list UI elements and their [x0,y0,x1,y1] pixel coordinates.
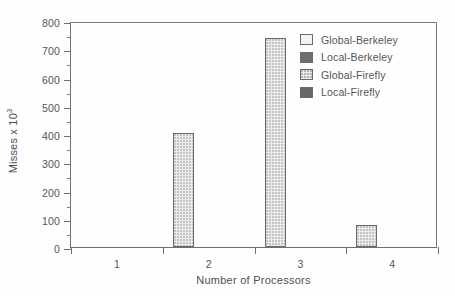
y-axis-tick [64,23,71,24]
y-axis-minor-tick [67,150,71,151]
y-axis-minor-tick [67,94,71,95]
legend-item: Local-Firefly [300,84,445,102]
y-axis-tick-label: 300 [42,158,60,170]
x-axis-tick-label: 4 [389,258,395,270]
x-axis-tick-label: 2 [206,258,212,270]
legend-item-label: Local-Berkeley [321,51,393,63]
y-axis-tick [64,108,71,109]
y-axis-title: Misses x 103 [7,81,19,201]
y-axis-tick [64,51,71,52]
bar [173,133,194,247]
x-axis-tick [346,247,347,254]
x-axis-tick [71,247,72,254]
legend-item-label: Global-Berkeley [321,34,398,46]
y-axis-tick [64,249,71,250]
y-axis-minor-tick [67,235,71,236]
chart-legend: Global-BerkeleyLocal-BerkeleyGlobal-Fire… [300,31,445,101]
y-axis-tick-label: 0 [54,243,60,255]
y-axis-minor-tick [67,122,71,123]
legend-swatch [300,34,313,45]
legend-swatch [300,87,313,98]
chart-figure: 01002003004005006007008001234 Misses x 1… [0,0,455,296]
bar [265,38,286,247]
y-axis-title-text: Misses x 10 [7,113,19,173]
x-axis-tick-label: 3 [297,258,303,270]
y-axis-minor-tick [67,65,71,66]
y-axis-tick [64,221,71,222]
y-axis-tick [64,136,71,137]
bar [356,225,377,247]
y-axis-tick [64,164,71,165]
x-axis-title: Number of Processors [70,274,437,286]
y-axis-tick [64,80,71,81]
y-axis-minor-tick [67,178,71,179]
y-axis-tick [64,193,71,194]
y-axis-minor-tick [67,207,71,208]
y-axis-tick-label: 100 [42,215,60,227]
legend-item-label: Local-Firefly [321,86,380,98]
x-axis-tick-label: 1 [114,258,120,270]
legend-item: Local-Berkeley [300,49,445,67]
y-axis-tick-label: 200 [42,187,60,199]
y-axis-tick-label: 400 [42,130,60,142]
x-axis-tick [255,247,256,254]
x-axis-tick [438,247,439,254]
y-axis-tick-label: 600 [42,74,60,86]
legend-item-label: Global-Firefly [321,69,386,81]
y-axis-tick-label: 800 [42,17,60,29]
legend-swatch [300,69,313,80]
legend-swatch [300,52,313,63]
legend-item: Global-Berkeley [300,31,445,49]
y-axis-title-exponent: 3 [5,109,14,113]
y-axis-tick-label: 700 [42,45,60,57]
y-axis-minor-tick [67,37,71,38]
x-axis-tick [163,247,164,254]
legend-item: Global-Firefly [300,66,445,84]
y-axis-tick-label: 500 [42,102,60,114]
